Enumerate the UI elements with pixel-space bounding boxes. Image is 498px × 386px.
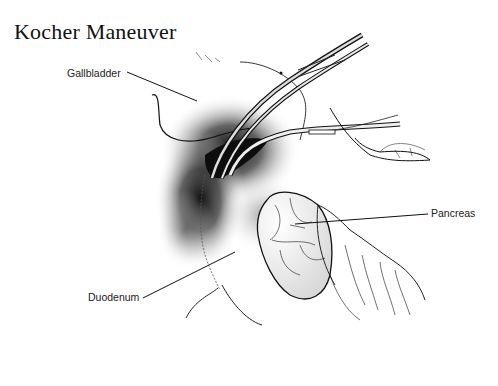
pancreas-head [257, 192, 331, 299]
omentum-tissue [330, 108, 430, 161]
pancreas-body [317, 205, 425, 320]
pancreas-label: Pancreas [431, 208, 475, 219]
surgical-illustration [0, 0, 498, 386]
gallbladder-label: Gallbladder [67, 68, 121, 79]
gallbladder-leader-line [127, 72, 197, 101]
duodenum-label: Duodenum [88, 292, 139, 303]
